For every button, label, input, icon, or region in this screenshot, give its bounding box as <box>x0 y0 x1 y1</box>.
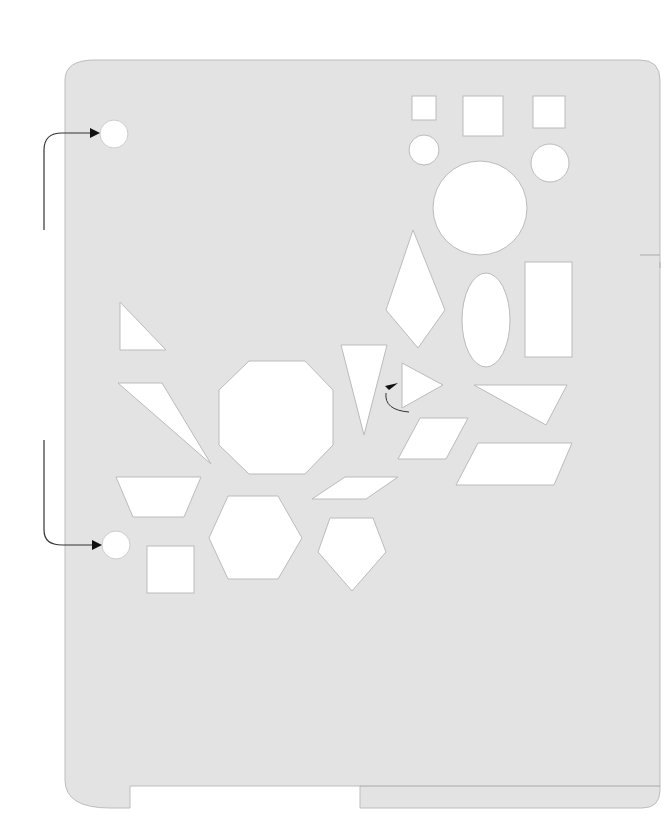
template-body <box>65 60 660 808</box>
small-circle-cutout <box>409 135 439 165</box>
medium-square-cutout <box>463 96 503 136</box>
regular-octagon-cutout <box>219 361 333 474</box>
ring-binder-hole-bottom <box>102 531 130 559</box>
rectangle-cutout <box>525 262 572 357</box>
square-cutout-right <box>533 96 565 128</box>
ellipse-cutout <box>462 273 510 367</box>
small-square-cutout <box>412 96 436 120</box>
circle-cutout <box>433 161 527 255</box>
square-cutout <box>147 546 194 593</box>
ring-binder-hole-top <box>100 120 128 148</box>
geometry-template-figure <box>0 0 672 830</box>
medium-circle-cutout <box>531 144 569 182</box>
